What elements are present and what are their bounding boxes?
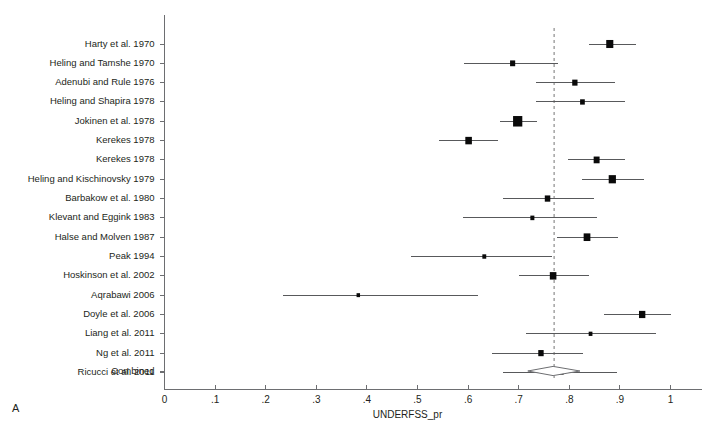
study-label: Liang et al. 2011 — [85, 327, 155, 338]
study-label: Heling and Shapira 1978 — [50, 95, 155, 106]
combined-effect-diamond — [528, 366, 580, 375]
x-axis-tick-label: .5 — [413, 394, 422, 405]
study-label: Kerekes 1978 — [96, 153, 155, 164]
study-label: Adenubi and Rule 1976 — [55, 76, 154, 87]
point-estimate-marker — [550, 272, 557, 279]
point-estimate-marker — [513, 116, 522, 126]
forest-row: Halse and Molven 1987 — [55, 231, 618, 242]
point-estimate-marker — [594, 157, 600, 164]
forest-row: Doyle et al. 2006 — [83, 308, 670, 319]
x-axis-tick-label: 1 — [668, 394, 674, 405]
point-estimate-marker — [589, 332, 593, 336]
study-label: Doyle et al. 2006 — [83, 308, 154, 319]
point-estimate-marker — [609, 175, 616, 183]
study-label: Halse and Molven 1987 — [55, 231, 155, 242]
x-axis-tick-label: .3 — [312, 394, 321, 405]
study-label: Heling and Tamshe 1970 — [50, 57, 155, 68]
panel-letter: A — [12, 402, 20, 414]
forest-row: Aqrabawi 2006 — [91, 289, 478, 300]
study-label: Hoskinson et al. 2002 — [63, 269, 154, 280]
point-estimate-marker — [530, 216, 534, 221]
forest-plot-svg: 0.1.2.3.4.5.6.7.8.91UNDERFSS_prHarty et … — [0, 0, 708, 425]
forest-row: Ng et al. 2011 — [96, 347, 583, 358]
study-label: Harty et al. 1970 — [85, 38, 155, 49]
x-axis-tick-label: 0 — [162, 394, 168, 405]
forest-plot-figure: 0.1.2.3.4.5.6.7.8.91UNDERFSS_prHarty et … — [0, 0, 708, 425]
forest-row: Heling and Tamshe 1970 — [50, 57, 558, 68]
forest-row: Adenubi and Rule 1976 — [55, 76, 615, 87]
forest-row: Kerekes 1978 — [96, 134, 499, 145]
x-axis-tick-label: .4 — [363, 394, 372, 405]
point-estimate-marker — [545, 195, 550, 201]
study-label: Kerekes 1978 — [96, 134, 155, 145]
x-axis-tick-label: .6 — [464, 394, 473, 405]
point-estimate-marker — [482, 254, 486, 258]
study-label: Barbakow et al. 1980 — [65, 192, 154, 203]
study-label: Jokinen et al. 1978 — [75, 115, 155, 126]
point-estimate-marker — [465, 137, 472, 144]
study-label: Heling and Kischinovsky 1979 — [28, 173, 155, 184]
x-axis-tick-label: .2 — [262, 394, 271, 405]
point-estimate-marker — [510, 60, 515, 66]
point-estimate-marker — [572, 80, 577, 86]
forest-row: Hoskinson et al. 2002 — [63, 269, 588, 280]
forest-row: Liang et al. 2011 — [85, 327, 656, 338]
combined-row: Combined — [111, 365, 580, 376]
x-axis-title: UNDERFSS_pr — [373, 409, 443, 420]
point-estimate-marker — [538, 350, 543, 356]
forest-row: Peak 1994 — [109, 250, 552, 261]
forest-row: Heling and Kischinovsky 1979 — [28, 173, 644, 184]
point-estimate-marker — [606, 40, 613, 48]
combined-label: Combined — [111, 365, 154, 376]
forest-row: Barbakow et al. 1980 — [65, 192, 593, 203]
study-label: Aqrabawi 2006 — [91, 289, 154, 300]
x-axis-tick-label: .7 — [515, 394, 524, 405]
forest-row: Jokinen et al. 1978 — [75, 115, 538, 127]
study-label: Ng et al. 2011 — [96, 347, 154, 358]
forest-row: Klevant and Eggink 1983 — [49, 211, 597, 222]
point-estimate-marker — [357, 293, 360, 297]
point-estimate-marker — [584, 233, 591, 241]
x-axis-tick-label: .1 — [211, 394, 220, 405]
study-label: Peak 1994 — [109, 250, 154, 261]
x-axis-tick-label: .9 — [616, 394, 625, 405]
study-label: Klevant and Eggink 1983 — [49, 211, 155, 222]
x-axis-tick-label: .8 — [565, 394, 574, 405]
point-estimate-marker — [580, 99, 585, 104]
point-estimate-marker — [639, 311, 645, 318]
forest-row: Harty et al. 1970 — [85, 38, 636, 49]
forest-row: Kerekes 1978 — [96, 153, 626, 164]
forest-row: Heling and Shapira 1978 — [50, 95, 626, 106]
